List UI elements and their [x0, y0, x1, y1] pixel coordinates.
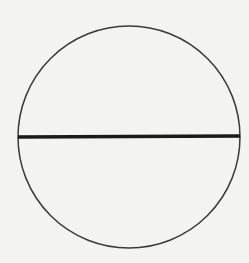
paper-background [0, 0, 249, 263]
diameter-line [18, 136, 240, 137]
diagram-canvas [0, 0, 249, 263]
circle-diagram [0, 0, 249, 263]
